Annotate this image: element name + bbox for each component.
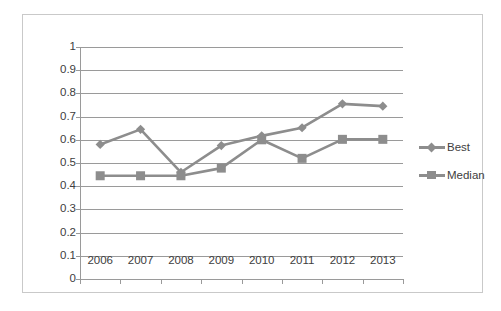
x-tick-1 [120,279,121,284]
x-tick-0 [80,279,81,284]
x-tick-4 [242,279,243,284]
y-axis-label-01: 0.1 [60,250,76,261]
y-axis-label-09: 0.9 [60,64,76,75]
x-axis-label-2007: 2007 [118,254,164,266]
data-point-best-2013[interactable] [378,102,387,111]
diamond-marker-icon [419,140,445,154]
y-axis-labels: 1 0.9 0.8 0.7 0.6 0.5 0.4 0.3 0.2 0.1 0 [41,47,76,279]
x-tick-2 [161,279,162,284]
legend-item-best[interactable]: Best [419,133,499,161]
data-point-median-2011[interactable] [298,154,307,163]
legend-label-best: Best [445,141,470,153]
series-line-median [100,139,383,175]
plot-area [80,47,403,279]
x-tick-6 [322,279,323,284]
y-axis-label-08: 0.8 [60,87,76,98]
x-axis-label-2008: 2008 [158,254,204,266]
data-point-median-2007[interactable] [136,171,145,180]
x-tick-3 [201,279,202,284]
data-point-median-2010[interactable] [257,135,266,144]
y-axis-label-02: 0.2 [60,227,76,238]
data-point-median-2008[interactable] [176,171,185,180]
x-tick-5 [282,279,283,284]
x-axis-label-2011: 2011 [279,254,325,266]
y-axis-label-06: 0.6 [60,134,76,145]
data-point-median-2012[interactable] [338,135,347,144]
x-axis-label-2010: 2010 [239,254,285,266]
data-point-median-2009[interactable] [217,164,226,173]
x-axis-label-2013: 2013 [360,254,406,266]
x-axis-label-2009: 2009 [198,254,244,266]
chart-legend: Best Median [419,133,499,189]
chart-frame: 1 0.9 0.8 0.7 0.6 0.5 0.4 0.3 0.2 0.1 0 … [22,14,483,293]
x-tick-8 [403,279,404,284]
data-point-best-2006[interactable] [96,140,105,149]
x-axis-label-2012: 2012 [319,254,365,266]
y-axis-label-05: 0.5 [60,157,76,168]
y-axis-label-04: 0.4 [60,180,76,191]
y-axis-label-07: 0.7 [60,111,76,122]
series-plot [80,47,403,279]
x-tick-7 [363,279,364,284]
x-axis-label-2006: 2006 [77,254,123,266]
data-point-median-2013[interactable] [378,135,387,144]
data-point-median-2006[interactable] [96,171,105,180]
y-axis-label-03: 0.3 [60,203,76,214]
legend-item-median[interactable]: Median [419,161,499,189]
legend-label-median: Median [445,169,485,181]
square-marker-icon [419,168,445,182]
